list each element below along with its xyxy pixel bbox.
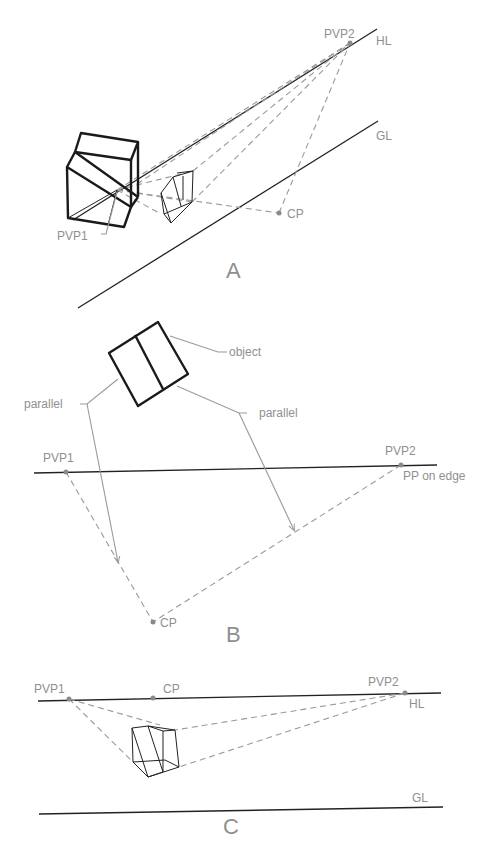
perspective-diagram: PVP2 HL GL CP PVP1 A object parallel par…	[0, 0, 496, 847]
label-pvp1-a: PVP1	[57, 229, 88, 243]
panel-caption-b: B	[226, 622, 241, 647]
pvp1-point-b	[64, 470, 69, 475]
small-prism-a	[161, 171, 193, 223]
panel-caption-a: A	[226, 258, 241, 283]
parallel-right-arrow	[239, 413, 294, 530]
parallel-right-leader	[177, 386, 247, 413]
label-cp-c: CP	[163, 682, 180, 696]
pvp2-point-a	[348, 41, 353, 46]
label-pvp2-b: PVP2	[385, 444, 416, 458]
pvp2-point-b	[399, 463, 404, 468]
label-cp-b: CP	[160, 616, 177, 630]
cp-point-b	[151, 620, 156, 625]
label-pvp2-a: PVP2	[324, 27, 355, 41]
label-gl-c: GL	[412, 791, 428, 805]
object-plan	[109, 322, 188, 406]
panel-a: PVP2 HL GL CP PVP1 A	[57, 27, 392, 308]
label-parallel-left: parallel	[24, 397, 63, 411]
label-parallel-right: parallel	[259, 406, 298, 420]
panel-c: PVP1 CP PVP2 HL GL C	[34, 675, 443, 839]
cp-point-c	[151, 696, 156, 701]
cp-point-a	[277, 211, 282, 216]
label-object: object	[229, 345, 262, 359]
parallel-left-leader	[80, 379, 118, 404]
sightline-pvp2	[153, 465, 401, 622]
construction-lines-c	[69, 693, 405, 767]
label-hl-c: HL	[409, 697, 425, 711]
box-perspective-c	[132, 726, 179, 777]
label-pvp1-b: PVP1	[43, 451, 74, 465]
picture-plane-line	[34, 465, 437, 473]
label-gl-a: GL	[376, 129, 392, 143]
label-pp-on-edge: PP on edge	[403, 469, 466, 483]
label-hl-a: HL	[376, 34, 392, 48]
label-pvp2-c: PVP2	[368, 675, 399, 689]
label-cp-a: CP	[287, 207, 304, 221]
object-leader	[170, 336, 227, 352]
pvp1-point-c	[67, 697, 72, 702]
sightline-pvp1	[66, 472, 153, 622]
panel-b: object parallel parallel PVP1 PVP2 PP on…	[24, 322, 466, 647]
label-pvp1-c: PVP1	[34, 682, 65, 696]
parallel-left-arrow	[87, 404, 118, 562]
large-cube	[67, 133, 138, 227]
ground-line-c	[39, 807, 443, 814]
panel-caption-c: C	[223, 814, 239, 839]
pvp2-point-c	[403, 691, 408, 696]
